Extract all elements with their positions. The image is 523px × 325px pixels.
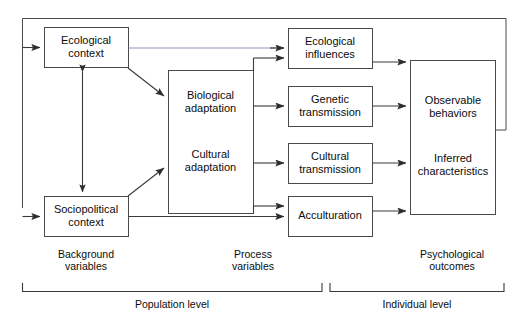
psychological-outcomes-box [411,61,496,215]
population-level-bracket [23,283,323,292]
individual-level-bracket [330,283,504,292]
diagram-canvas: Ecological context Sociopolitical contex… [0,0,523,325]
boxes-outline-group [45,28,496,237]
sociopolitical-context-box [45,197,129,237]
adaptation-box [169,71,254,214]
sociopolitical-context-to-adaptation [128,168,164,196]
diagram-vector-layer [0,0,523,325]
level-bracket-group [23,283,505,292]
cultural-transmission-box [289,144,373,184]
ecological-influences-box [289,29,373,69]
ecological-context-box [45,28,129,68]
ecological-context-to-adaptation [128,68,164,96]
acculturation-box [289,197,373,237]
genetic-transmission-box [289,87,373,127]
